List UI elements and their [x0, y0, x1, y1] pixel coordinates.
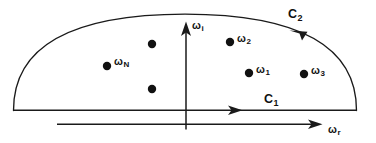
- contour-label-c2: C2: [288, 8, 303, 21]
- pole-dot-unlabeled-upper: [148, 40, 156, 48]
- contour-subscript-c2: 2: [297, 13, 303, 23]
- imaginary-axis-label: ωi: [192, 20, 204, 31]
- contour-label-c1: C1: [264, 93, 279, 106]
- real-axis-label: ωr: [328, 124, 341, 135]
- contour-symbol-c2: C: [288, 7, 297, 21]
- pole-subscript-omega-1: 1: [265, 68, 270, 77]
- contour-subscript-c1: 1: [273, 98, 279, 108]
- pole-label-omega-1: ω1: [256, 64, 270, 75]
- real-axis-subscript: r: [337, 128, 341, 137]
- imaginary-axis-subscript: i: [201, 24, 204, 33]
- pole-dot-omega-1: [245, 69, 253, 77]
- pole-label-omega-3: ω3: [311, 65, 325, 76]
- pole-dot-omega-n: [103, 62, 111, 70]
- pole-subscript-omega-n: N: [123, 60, 129, 69]
- pole-dot-unlabeled-lower: [148, 85, 156, 93]
- pole-symbol-omega-3: ω: [311, 64, 320, 76]
- pole-subscript-omega-3: 3: [320, 69, 325, 78]
- pole-label-omega-2: ω2: [237, 33, 251, 44]
- pole-dot-omega-2: [226, 38, 234, 46]
- contour-diagram-figure: ωi ωr ωN ω2 ω1 ω3 C1 C2: [0, 0, 376, 143]
- pole-dot-omega-3: [300, 70, 308, 78]
- pole-symbol-omega-1: ω: [256, 63, 265, 75]
- contour-symbol-c1: C: [264, 92, 273, 106]
- real-axis-symbol: ω: [328, 123, 337, 135]
- pole-symbol-omega-2: ω: [237, 32, 246, 44]
- pole-subscript-omega-2: 2: [246, 37, 251, 46]
- contour-c2-arrowhead-icon: [290, 31, 308, 41]
- pole-label-omega-n: ωN: [114, 56, 129, 67]
- imaginary-axis-symbol: ω: [192, 19, 201, 31]
- pole-symbol-omega-n: ω: [114, 55, 123, 67]
